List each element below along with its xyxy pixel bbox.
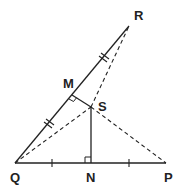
right-angle-M-icon	[69, 98, 77, 102]
diagram-svg: R M S Q N P	[0, 0, 181, 193]
segment-SR	[91, 26, 129, 107]
segment-MS	[72, 95, 91, 107]
segment-QS	[15, 107, 91, 163]
right-angle-N-icon	[85, 157, 91, 163]
segment-QR	[15, 26, 129, 163]
label-R: R	[134, 8, 144, 23]
geometry-diagram: R M S Q N P	[0, 0, 181, 193]
label-S: S	[98, 99, 107, 114]
label-P: P	[164, 170, 173, 185]
segment-SP	[91, 107, 166, 163]
label-N: N	[86, 170, 95, 185]
label-M: M	[63, 76, 74, 91]
label-Q: Q	[10, 170, 20, 185]
